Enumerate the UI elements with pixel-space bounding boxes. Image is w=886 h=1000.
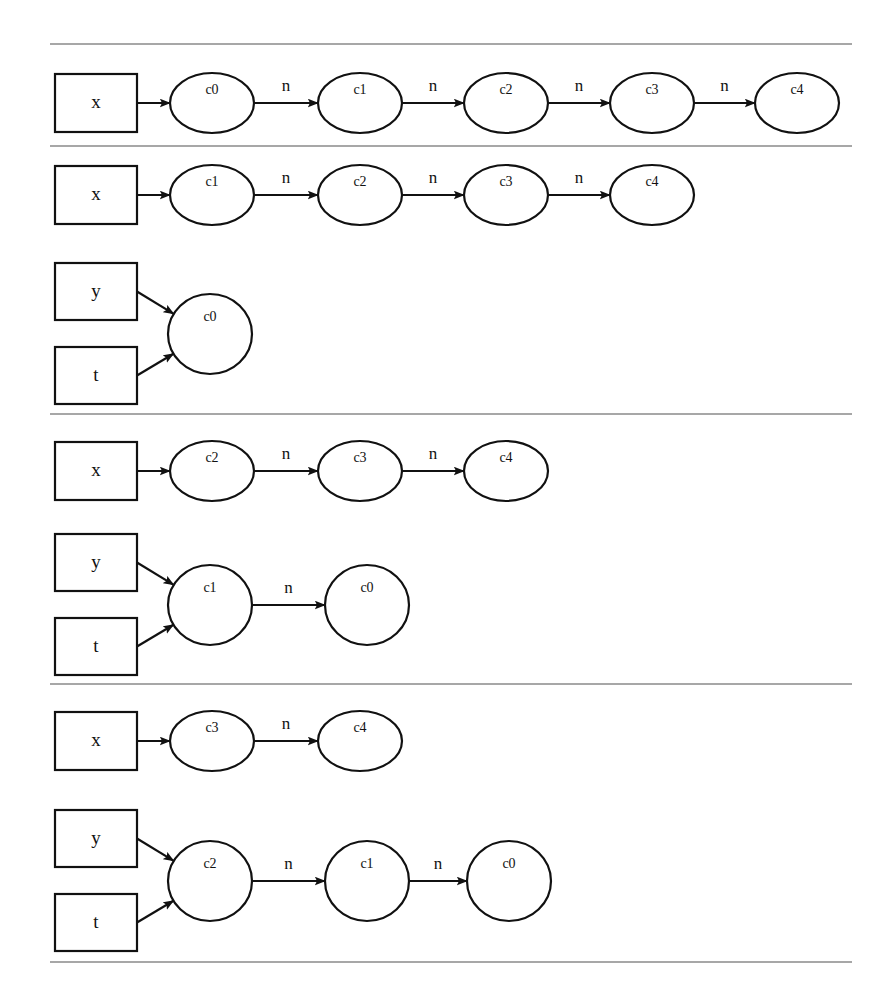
node-c4[interactable]: c4 [464,441,548,501]
row-x-c3-c4: c3c4xn [55,711,402,771]
pointer-arrow-y [137,839,174,861]
edge-label: n [575,76,584,95]
section-3: c3c4xnc2c1c0ytnn [55,711,551,951]
node-label: c1 [353,82,366,97]
row-x-c0-c4: c0c1c2c3c4xnnnn [55,73,839,133]
node-c1[interactable]: c1 [170,165,254,225]
pointer-arrow-y [137,563,174,585]
node-label: c3 [499,174,512,189]
node-c4[interactable]: c4 [610,165,694,225]
node-c0[interactable]: c0 [325,565,409,645]
edge-c3-to-c4: n [548,168,610,195]
section-1: c0c1c2c3c4xnnnnc1c2c3c4xnnnc0yt [55,73,839,404]
node-label: c4 [499,450,512,465]
node-c3[interactable]: c3 [170,711,254,771]
node-ellipse [168,841,252,921]
pointer-y[interactable]: y [55,810,137,867]
edge-label: n [282,76,291,95]
edge-c3-to-c4: n [254,714,318,741]
edge-label: n [575,168,584,187]
pointer-label: y [91,551,101,572]
pointer-y[interactable]: y [55,263,137,320]
pointer-label: x [91,729,101,750]
node-c0[interactable]: c0 [168,294,252,374]
edge-label: n [282,444,291,463]
node-ellipse [325,841,409,921]
node-ellipse [467,841,551,921]
pointer-arrow-t [137,625,173,647]
edge-c3-to-c4: n [694,76,755,103]
node-c3[interactable]: c3 [318,441,402,501]
pointer-y[interactable]: y [55,534,137,591]
edge-c3-to-c4: n [402,444,464,471]
node-label: c0 [360,580,373,595]
node-label: c4 [645,174,658,189]
node-c1[interactable]: c1 [325,841,409,921]
edge-c2-to-c3: n [254,444,318,471]
pointer-x[interactable]: x [55,712,137,770]
node-label: c1 [203,580,216,595]
section-2: c2c3c4xnnc1c0ytn [55,441,548,675]
node-c4[interactable]: c4 [318,711,402,771]
row-yt-c1-c0: c1c0ytn [55,534,409,675]
edge-c2-to-c3: n [548,76,610,103]
node-c4[interactable]: c4 [755,73,839,133]
node-ellipse [325,565,409,645]
node-c0[interactable]: c0 [170,73,254,133]
pointer-label: y [91,280,101,301]
pointer-t[interactable]: t [55,347,137,404]
node-label: c2 [203,856,216,871]
node-label: c0 [203,309,216,324]
node-c2[interactable]: c2 [318,165,402,225]
pointer-label: y [91,827,101,848]
separator-rules [50,44,852,962]
edge-c0-to-c1: n [254,76,318,103]
pointer-x[interactable]: x [55,442,137,500]
pointer-x[interactable]: x [55,74,137,132]
edge-label: n [282,168,291,187]
node-label: c2 [499,82,512,97]
node-c1[interactable]: c1 [318,73,402,133]
node-c3[interactable]: c3 [464,165,548,225]
diagram-rows: c0c1c2c3c4xnnnnc1c2c3c4xnnnc0ytc2c3c4xnn… [55,73,839,951]
node-label: c2 [205,450,218,465]
pointer-label: t [93,911,99,932]
node-ellipse [168,294,252,374]
node-c0[interactable]: c0 [467,841,551,921]
row-x-c2-c4: c2c3c4xnn [55,441,548,501]
pointer-x[interactable]: x [55,166,137,224]
edge-label: n [282,714,291,733]
node-label: c0 [502,856,515,871]
edge-label: n [429,76,438,95]
edge-label: n [720,76,729,95]
node-label: c1 [205,174,218,189]
edge-label: n [429,168,438,187]
node-label: c0 [205,82,218,97]
edge-label: n [284,578,293,597]
row-yt-c0: c0yt [55,263,252,404]
node-c3[interactable]: c3 [610,73,694,133]
node-label: c4 [790,82,803,97]
node-label: c3 [205,720,218,735]
edge-label: n [434,854,443,873]
pointer-label: t [93,635,99,656]
row-yt-c2-c1-c0: c2c1c0ytnn [55,810,551,951]
edge-label: n [429,444,438,463]
node-c1[interactable]: c1 [168,565,252,645]
node-c2[interactable]: c2 [464,73,548,133]
pointer-label: t [93,364,99,385]
node-c2[interactable]: c2 [170,441,254,501]
edge-c1-to-c2: n [254,168,318,195]
node-label: c2 [353,174,366,189]
pointer-t[interactable]: t [55,894,137,951]
node-label: c4 [353,720,366,735]
pointer-arrow-y [137,292,174,314]
edge-c1-to-c0: n [252,578,325,605]
pointer-t[interactable]: t [55,618,137,675]
pointer-arrow-t [137,354,173,376]
node-c2[interactable]: c2 [168,841,252,921]
pointer-arrow-t [137,901,173,923]
pointer-label: x [91,183,101,204]
edge-c1-to-c2: n [402,76,464,103]
edge-c2-to-c1: n [252,854,325,881]
